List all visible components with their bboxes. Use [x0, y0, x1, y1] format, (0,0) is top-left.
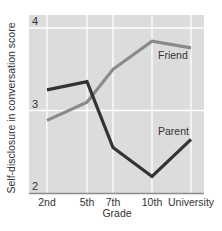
x-axis-label: Grade	[0, 207, 222, 219]
series-label-parent: Parent	[158, 125, 189, 137]
y-tick-label: 4	[32, 15, 38, 27]
series-label-friend: Friend	[158, 49, 188, 61]
y-tick-label: 2	[32, 180, 38, 192]
plot-area	[29, 15, 204, 193]
y-axis-label: Self-disclosure in conversation score	[1, 22, 19, 194]
y-tick-label: 3	[32, 98, 38, 110]
line-chart: 2342nd5th7th10thUniversityFriendParent	[0, 0, 222, 231]
y-axis-label-text: Self-disclosure in conversation score	[4, 23, 16, 194]
